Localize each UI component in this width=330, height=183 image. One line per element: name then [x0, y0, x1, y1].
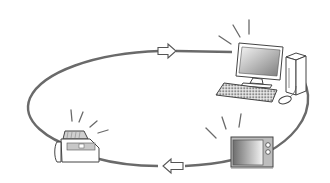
fax-machine-icon — [55, 110, 108, 162]
desktop-computer-icon — [216, 20, 306, 105]
device-cycle-diagram — [0, 0, 330, 183]
arrow-right-icon — [158, 44, 176, 58]
arrow-left-icon — [163, 159, 183, 173]
television-icon — [206, 114, 273, 168]
